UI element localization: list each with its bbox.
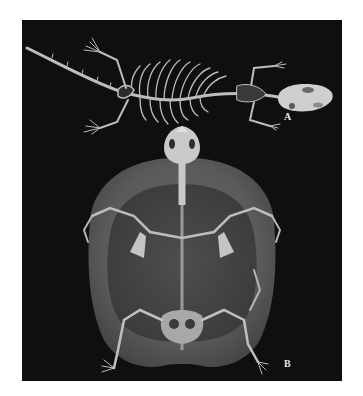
figure-panel: A B [22, 20, 342, 381]
turtle-skeleton [84, 126, 280, 374]
lizard-skull [278, 84, 333, 111]
skeleton-illustrations [22, 20, 342, 381]
panel-label-a: A [284, 112, 291, 122]
lizard-skeleton [27, 38, 286, 134]
panel-label-b: B [284, 359, 291, 369]
